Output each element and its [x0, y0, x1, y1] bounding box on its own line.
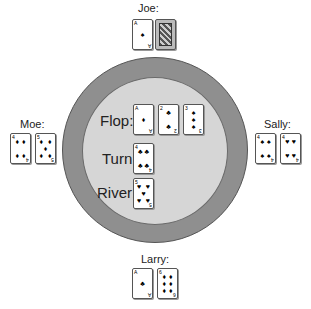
card-rank: 6: [173, 292, 176, 297]
card-larry-2: 6♦♦♦♦♦♦6: [157, 268, 178, 299]
diamonds-suit-icon: [48, 145, 52, 152]
clubs-suit-icon: [162, 116, 175, 123]
card-joe-2-face-card: [155, 19, 176, 50]
hearts-suit-icon: ♥: [146, 183, 150, 190]
spades-suit-icon: ♠: [187, 109, 200, 116]
flop-card-3: 3♠♠♠3: [183, 104, 204, 135]
card-sally-1: 4♠♠♠♠4: [255, 133, 276, 164]
card-rank: A: [149, 128, 152, 133]
clubs-suit-icon: ♣: [162, 109, 175, 116]
diamonds-suit-icon: [21, 145, 28, 152]
card-larry-1: A♣A: [132, 268, 153, 299]
card-rank: 4: [26, 157, 29, 162]
spades-suit-icon: ♠: [136, 31, 149, 38]
card-rank: A: [148, 292, 151, 297]
player-name-sally: Sally:: [264, 118, 291, 130]
river-card: 5♥♥♥♥♥5: [133, 178, 154, 209]
spades-suit-icon: [266, 145, 273, 152]
card-rank: 2: [174, 128, 177, 133]
card-rank: A: [148, 43, 151, 48]
flop-card-1: A♦A: [133, 104, 154, 135]
card-rank: 5: [149, 202, 152, 207]
card-rank: 4: [271, 157, 274, 162]
diamonds-suit-icon: ♦: [21, 138, 28, 145]
clubs-suit-icon: [144, 155, 151, 162]
card-sally-2: 4♥♥♥♥4: [280, 133, 301, 164]
card-joe-1: A♠A: [132, 19, 153, 50]
diamonds-suit-icon: ♦: [48, 138, 52, 145]
card-moe-1: 4♦♦♦♦4: [10, 133, 31, 164]
hearts-suit-icon: [146, 190, 150, 197]
turn-label: Turn:: [102, 150, 136, 167]
player-name-joe: Joe:: [138, 2, 159, 14]
card-rank: 4: [149, 167, 152, 172]
spades-suit-icon: ♠: [266, 138, 273, 145]
hearts-suit-icon: ♥: [291, 138, 298, 145]
card-rank: 3: [199, 128, 202, 133]
flop-card-2: 2♣♣2: [158, 104, 179, 135]
player-name-moe: Moe:: [20, 118, 44, 130]
player-name-larry: Larry:: [141, 253, 169, 265]
clubs-suit-icon: [136, 273, 149, 280]
clubs-suit-icon: ♣: [136, 280, 149, 287]
spades-suit-icon: ♠: [187, 116, 200, 123]
hearts-suit-icon: [291, 145, 298, 152]
flop-label: Flop:: [100, 112, 133, 129]
diamonds-suit-icon: ♦: [137, 116, 150, 123]
card-moe-2: 5♦♦♦♦♦5: [35, 133, 56, 164]
spades-suit-icon: [136, 24, 149, 31]
turn-card: 4♣♣♣♣4: [133, 143, 154, 174]
clubs-suit-icon: ♣: [144, 148, 151, 155]
card-rank: 5: [51, 157, 54, 162]
card-rank: 4: [296, 157, 299, 162]
diamonds-suit-icon: ♦: [168, 273, 175, 280]
diamonds-suit-icon: [137, 109, 150, 116]
river-label: River:: [97, 184, 136, 201]
diamonds-suit-icon: ♦: [168, 280, 175, 287]
